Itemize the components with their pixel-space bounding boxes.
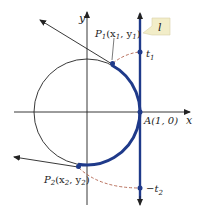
x-axis-label: x — [186, 114, 193, 127]
point-p2 — [76, 164, 81, 169]
point-p1 — [110, 61, 115, 66]
point-t1 — [138, 50, 143, 55]
dashed-wrap-p1-t1 — [113, 52, 140, 63]
p1-leader — [112, 38, 114, 60]
point-neg-t2 — [138, 186, 143, 191]
unit-circle-diagram: l y x P1(x1, y1) t1 A(1, 0) P2(x2, y2) −… — [0, 0, 200, 215]
y-axis-label: y — [78, 12, 86, 25]
t1-label: t1 — [146, 48, 155, 62]
tangent-ray-p1 — [40, 20, 112, 64]
p1-label: P1(x1, y1) — [94, 28, 141, 41]
point-a-label: A(1, 0) — [143, 115, 178, 126]
p2-label: P2(x2, y2) — [43, 174, 90, 187]
neg-t2-label: −t2 — [146, 183, 163, 197]
point-a — [138, 110, 143, 115]
line-l-tag: l — [143, 18, 170, 35]
line-l-label: l — [158, 21, 162, 34]
